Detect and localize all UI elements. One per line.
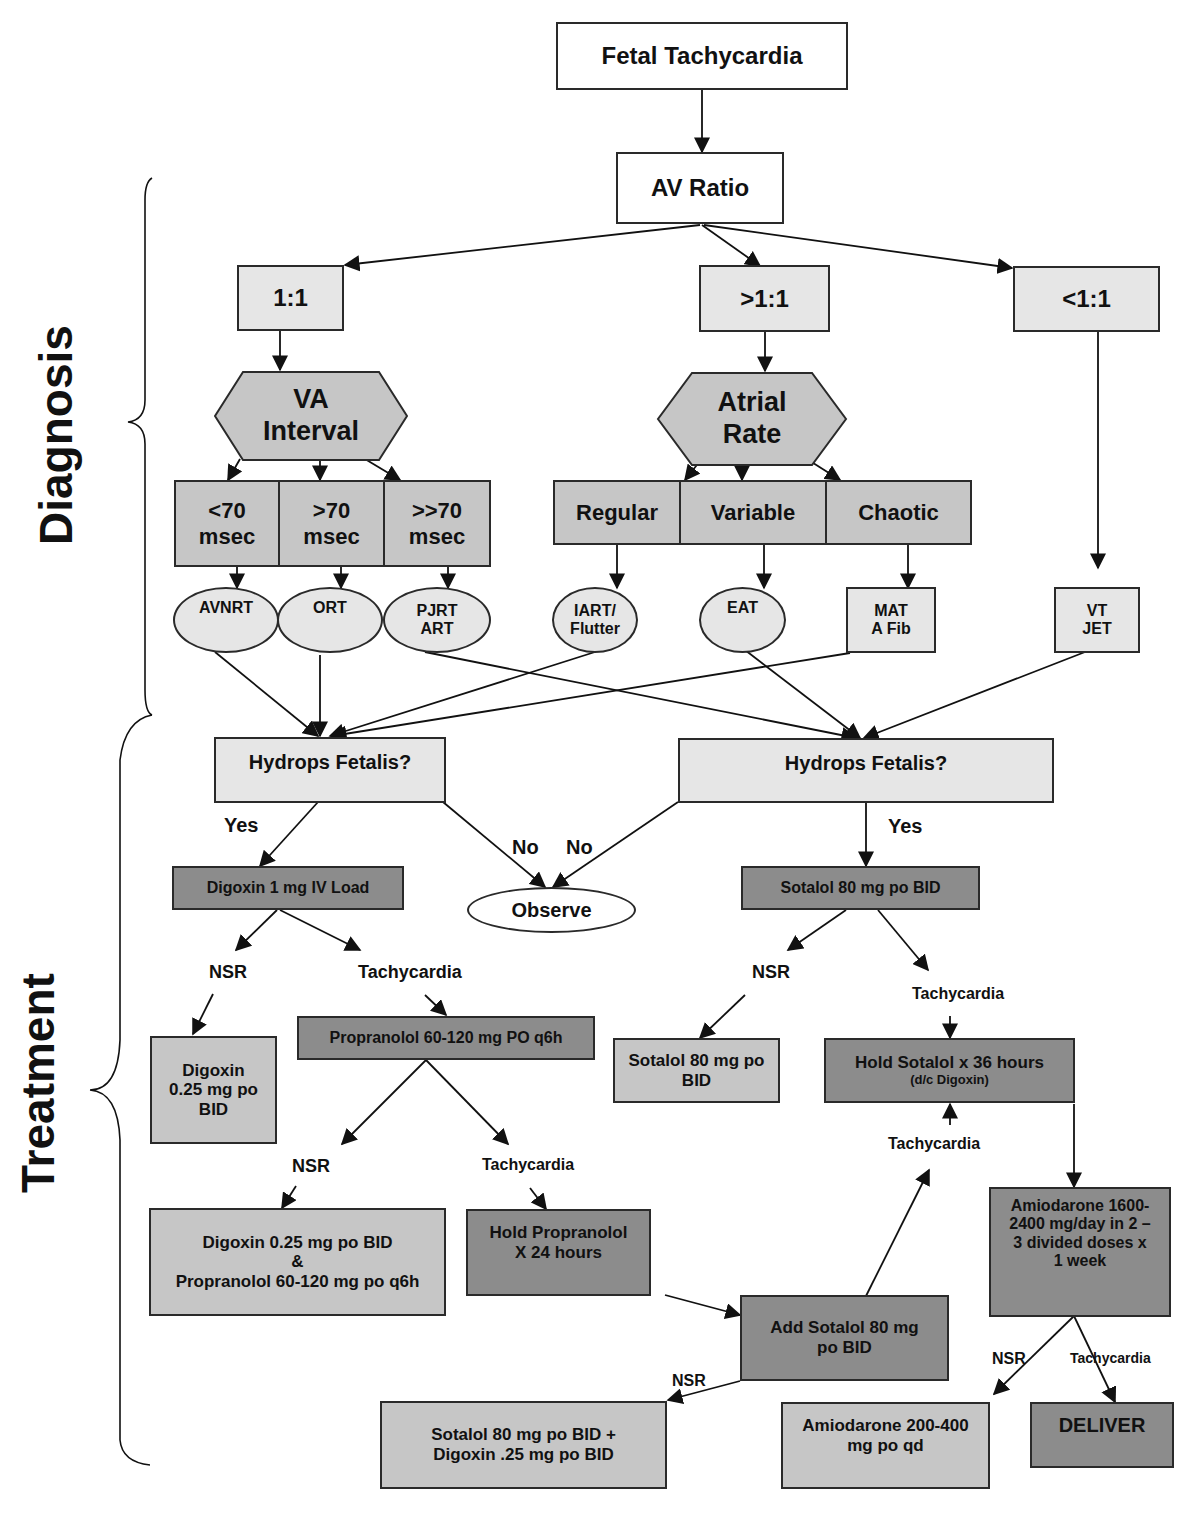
hold-sotalol-node: Hold Sotalol x 36 hours (d/c Digoxin)	[824, 1038, 1075, 1103]
rhythm-ort-node: ORT	[277, 587, 383, 653]
atrial-rate-label: Atrial Rate	[656, 371, 848, 467]
av-ratio-node: AV Ratio	[616, 152, 784, 224]
nsr-label-3: NSR	[672, 1372, 706, 1390]
hold-sotalol-label: Hold Sotalol x 36 hours	[855, 1053, 1044, 1073]
root-node-fetal-tachycardia: Fetal Tachycardia	[556, 22, 848, 90]
rhythm-pjrt-art-node: PJRT ART	[383, 587, 491, 653]
tachycardia-label-4: Tachycardia	[912, 985, 1004, 1003]
amiodarone-maintenance-node: Amiodarone 200-400 mg po qd	[781, 1402, 990, 1489]
nsr-label-6: NSR	[992, 1350, 1026, 1368]
sotalol-maintenance-node: Sotalol 80 mg po BID	[613, 1038, 780, 1103]
yes-label-left: Yes	[224, 814, 258, 837]
sotalol-start-node: Sotalol 80 mg po BID	[741, 866, 980, 910]
digoxin-maintenance-node: Digoxin 0.25 mg po BID	[150, 1036, 277, 1144]
va-gt70-node: >70 msec	[278, 480, 385, 567]
no-label-right: No	[566, 836, 593, 859]
atrial-chaotic-node: Chaotic	[825, 480, 972, 545]
amiodarone-load-node: Amiodarone 1600- 2400 mg/day in 2 – 3 di…	[989, 1187, 1171, 1317]
deliver-node: DELIVER	[1030, 1402, 1174, 1468]
sotalol-digoxin-node: Sotalol 80 mg po BID + Digoxin .25 mg po…	[380, 1401, 667, 1489]
nsr-label-4: NSR	[752, 962, 790, 983]
hold-propranolol-node: Hold Propranolol X 24 hours	[466, 1209, 651, 1296]
diagnosis-section-label: Diagnosis	[29, 305, 83, 545]
va-gtgt70-node: >>70 msec	[383, 480, 491, 567]
add-sotalol-node: Add Sotalol 80 mg po BID	[740, 1295, 949, 1381]
rhythm-mat-afib-node: MAT A Fib	[846, 587, 936, 653]
va-lt70-node: <70 msec	[174, 480, 280, 567]
propranolol-node: Propranolol 60-120 mg PO q6h	[297, 1016, 595, 1060]
yes-label-right: Yes	[888, 815, 922, 838]
rhythm-iart-flutter-node: IART/ Flutter	[552, 587, 638, 653]
ratio-gt-1-1-node: >1:1	[699, 265, 830, 332]
digoxin-propranolol-node: Digoxin 0.25 mg po BID & Propranolol 60-…	[149, 1208, 446, 1316]
hydrops-question-left: Hydrops Fetalis?	[214, 737, 446, 803]
treatment-section-label: Treatment	[11, 933, 65, 1193]
atrial-variable-node: Variable	[679, 480, 827, 545]
observe-node: Observe	[467, 887, 636, 933]
hold-sotalol-note: (d/c Digoxin)	[910, 1073, 989, 1088]
rhythm-avnrt-node: AVNRT	[173, 587, 279, 653]
digoxin-load-node: Digoxin 1 mg IV Load	[172, 866, 404, 910]
ratio-lt-1-1-node: <1:1	[1013, 266, 1160, 332]
rhythm-vt-jet-node: VT JET	[1054, 587, 1140, 653]
hydrops-question-right: Hydrops Fetalis?	[678, 738, 1054, 803]
ratio-1-1-node: 1:1	[237, 265, 344, 331]
nsr-label-1: NSR	[209, 962, 247, 983]
tachycardia-label-2: Tachycardia	[482, 1156, 574, 1174]
tachycardia-label-5: Tachycardia	[888, 1135, 980, 1153]
rhythm-eat-node: EAT	[699, 587, 786, 653]
nsr-label-2: NSR	[292, 1156, 330, 1177]
atrial-regular-node: Regular	[553, 480, 681, 545]
no-label-left: No	[512, 836, 539, 859]
va-interval-label: VA Interval	[213, 370, 409, 462]
tachycardia-label-1: Tachycardia	[358, 962, 462, 983]
tachycardia-label-6: Tachycardia	[1070, 1350, 1151, 1366]
